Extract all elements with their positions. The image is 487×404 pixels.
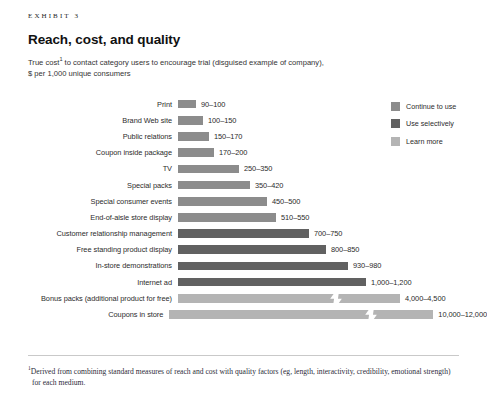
bar-wrapper: 700–750	[178, 226, 487, 242]
legend-item: Continue to use	[391, 99, 483, 113]
chart-row: In-store demonstrations930–980	[0, 258, 487, 274]
bar-category-label: Bonus packs (additional product for free…	[0, 294, 178, 303]
bar	[178, 294, 400, 303]
subtitle-text-part1: True cost	[28, 58, 59, 67]
chart-row: Coupons in store10,000–12,000	[0, 306, 487, 322]
bar-category-label: Print	[0, 100, 178, 109]
chart-row: End-of-aisle store display510–550	[0, 209, 487, 225]
bar	[178, 181, 250, 190]
bar-wrapper: 510–550	[178, 209, 487, 225]
chart-row: Customer relationship management700–750	[0, 226, 487, 242]
bar-category-label: Special packs	[0, 181, 178, 190]
footnote: 1Derived from combining standard measure…	[28, 366, 457, 389]
bar-category-label: Customer relationship management	[0, 229, 178, 238]
bar-value-label: 700–750	[314, 229, 342, 238]
legend-item: Learn more	[391, 134, 483, 148]
bar-value-label: 150–170	[214, 132, 242, 141]
chart-row: Bonus packs (additional product for free…	[0, 290, 487, 306]
bar-category-label: Free standing product display	[0, 245, 178, 254]
bar-value-label: 10,000–12,000	[438, 310, 487, 319]
subtitle-text-part2: to contact category users to encourage t…	[63, 58, 324, 67]
footer-divider	[28, 355, 459, 356]
bar-value-label: 170–200	[219, 148, 247, 157]
bar-category-label: Public relations	[0, 132, 178, 141]
bar-wrapper: 350–420	[178, 177, 487, 193]
axis-break-icon	[330, 292, 343, 306]
bar	[178, 148, 214, 157]
bar-category-label: Coupon inside package	[0, 148, 178, 157]
chart-row: TV250–350	[0, 161, 487, 177]
bar-value-label: 930–980	[353, 261, 381, 270]
bar-category-label: Brand Web site	[0, 116, 178, 125]
legend-swatch-icon	[391, 102, 400, 111]
bar-value-label: 1,000–1,200	[371, 278, 412, 287]
legend-swatch-icon	[391, 119, 400, 128]
chart-row: Special packs350–420	[0, 177, 487, 193]
chart-row: Internet ad1,000–1,200	[0, 274, 487, 290]
bar	[178, 278, 366, 287]
exhibit-eyebrow: EXHIBIT 3	[28, 12, 80, 20]
chart-row: Free standing product display800–850	[0, 242, 487, 258]
bar-category-label: In-store demonstrations	[0, 261, 178, 270]
bar-category-label: TV	[0, 164, 178, 173]
bar-wrapper: 4,000–4,500	[178, 290, 487, 306]
bar-wrapper: 450–500	[178, 193, 487, 209]
bar-category-label: Coupons in store	[0, 310, 169, 319]
bar-category-label: Special consumer events	[0, 197, 178, 206]
bar-value-label: 90–100	[201, 100, 225, 109]
bar-wrapper: 10,000–12,000	[169, 306, 487, 322]
bar-value-label: 510–550	[281, 213, 309, 222]
legend-item: Use selectively	[391, 117, 483, 131]
page-title: Reach, cost, and quality	[28, 32, 180, 47]
bar	[178, 229, 309, 238]
bar-category-label: Internet ad	[0, 278, 178, 287]
bar	[169, 310, 433, 319]
bar-wrapper: 1,000–1,200	[178, 274, 487, 290]
bar-wrapper: 250–350	[178, 161, 487, 177]
bar	[178, 213, 276, 222]
bar-wrapper: 800–850	[178, 242, 487, 258]
legend-swatch-icon	[391, 137, 400, 146]
bar-value-label: 350–420	[255, 181, 283, 190]
bar	[178, 197, 267, 206]
bar	[178, 116, 203, 125]
exhibit-card: EXHIBIT 3 Reach, cost, and quality True …	[0, 0, 487, 404]
bar	[178, 245, 326, 254]
legend-label: Use selectively	[406, 119, 454, 128]
footnote-text: Derived from combining standard measures…	[31, 367, 451, 387]
bar-value-label: 4,000–4,500	[405, 294, 446, 303]
legend-label: Learn more	[406, 137, 443, 146]
bar	[178, 165, 239, 174]
bar	[178, 100, 196, 109]
bar	[178, 262, 348, 271]
bar-category-label: End-of-aisle store display	[0, 213, 178, 222]
subtitle-text-line2: $ per 1,000 unique consumers	[28, 69, 131, 78]
bar-wrapper: 930–980	[178, 258, 487, 274]
bar-value-label: 250–350	[244, 164, 272, 173]
bar-value-label: 800–850	[331, 245, 359, 254]
bar-value-label: 100–150	[208, 116, 236, 125]
axis-break-icon	[365, 308, 378, 322]
chart-row: Special consumer events450–500	[0, 193, 487, 209]
chart-legend: Continue to useUse selectivelyLearn more	[391, 99, 483, 152]
bar-value-label: 450–500	[272, 197, 300, 206]
bar	[178, 132, 209, 141]
legend-label: Continue to use	[406, 102, 456, 111]
chart-subtitle: True cost1 to contact category users to …	[28, 57, 358, 79]
